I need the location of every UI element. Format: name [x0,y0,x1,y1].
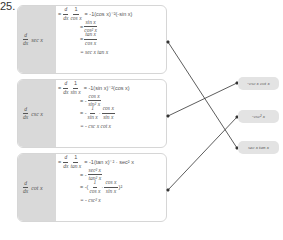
answer-pill-2: -csc² x [238,110,279,123]
dot-icon [167,115,169,117]
answer-pill-3: sec x tan x [238,141,279,154]
dot-icon [167,41,169,43]
line-cot-to-csc2 [168,117,237,190]
dot-icon [167,189,169,191]
line-csc-to-csccot [168,83,237,116]
line-sec-to-sectan [168,42,237,148]
answer-pill-1: -csc x cot x [238,77,279,90]
